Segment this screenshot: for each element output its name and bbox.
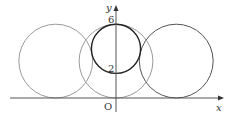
y-axis-arrow-icon [114, 5, 119, 11]
diagram: y x O 6 2 [0, 0, 230, 122]
right-circle [139, 24, 213, 98]
x-axis-arrow-icon [218, 96, 224, 101]
y-tick-label-6: 6 [108, 14, 114, 25]
y-axis-label: y [105, 2, 112, 13]
left-circle [19, 24, 93, 98]
origin-label: O [104, 101, 112, 112]
x-axis-label: x [216, 102, 222, 113]
y-tick-label-2: 2 [108, 63, 114, 74]
